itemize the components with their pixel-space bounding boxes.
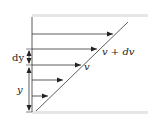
arrowhead-icon [91,47,97,52]
arrowhead-icon [107,32,113,37]
label-dy: dy [12,52,24,63]
bottom-plate [32,111,148,114]
arrowhead-up-icon [27,50,32,56]
top-plate [32,14,148,17]
y-dimension [26,67,32,112]
arrowhead-icon [75,63,81,68]
label-y: y [16,84,23,95]
dy-dimension [26,49,32,65]
label-v-plus-dv: v + dv [102,46,135,57]
arrowhead-icon [57,78,63,83]
velocity-arrows [32,32,113,99]
arrowhead-down-icon [27,58,32,64]
arrowhead-up-icon [27,67,32,73]
label-v: v [84,61,90,72]
arrowhead-down-icon [27,105,32,111]
arrowhead-icon [42,94,48,99]
velocity-profile-diagram: dy y v v + dv [0,0,160,129]
velocity-profile-line [36,22,128,111]
